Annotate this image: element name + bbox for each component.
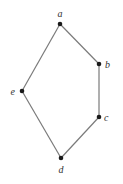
- edge-a-b: [60, 24, 99, 64]
- nodes: [20, 22, 102, 161]
- node-b: [97, 62, 102, 67]
- edge-d-e: [22, 91, 61, 158]
- node-label-b: b: [105, 59, 110, 70]
- node-label-d: d: [59, 164, 65, 175]
- node-label-e: e: [11, 86, 16, 97]
- labels: abcde: [11, 8, 110, 175]
- edge-c-d: [61, 117, 99, 158]
- hasse-diagram: abcde: [0, 0, 123, 184]
- node-c: [97, 115, 102, 120]
- node-a: [58, 22, 63, 27]
- node-label-a: a: [58, 8, 63, 19]
- node-d: [59, 156, 64, 161]
- edges: [22, 24, 99, 158]
- edge-e-a: [22, 24, 60, 91]
- node-label-c: c: [104, 112, 109, 123]
- node-e: [20, 89, 25, 94]
